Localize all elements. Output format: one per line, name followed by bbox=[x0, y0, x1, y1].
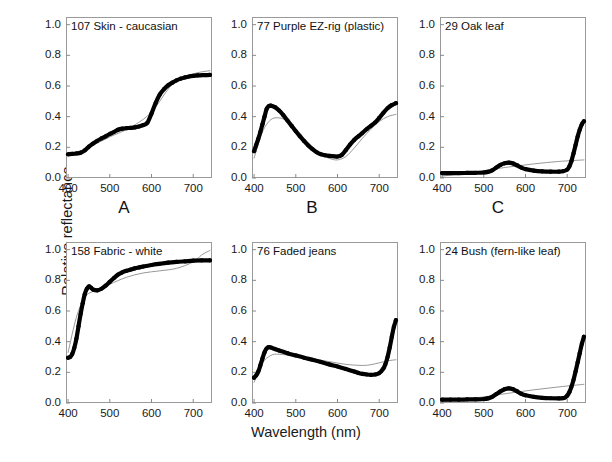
y-tick-label: 0.6 bbox=[32, 304, 61, 316]
x-tick-label: 500 bbox=[464, 182, 504, 194]
data-point bbox=[523, 393, 527, 397]
data-point bbox=[448, 171, 452, 175]
data-point bbox=[369, 124, 373, 128]
data-point bbox=[124, 126, 128, 130]
data-point bbox=[388, 346, 392, 350]
data-point bbox=[576, 360, 580, 364]
x-tick-label: 500 bbox=[90, 407, 130, 419]
x-tick-label: 700 bbox=[359, 182, 399, 194]
y-tick-label: 0.4 bbox=[218, 110, 247, 122]
y-tick-label: 0.6 bbox=[406, 79, 435, 91]
data-point bbox=[95, 139, 99, 143]
data-point bbox=[87, 144, 91, 148]
data-point bbox=[104, 134, 108, 138]
data-point bbox=[91, 287, 95, 291]
data-point bbox=[381, 366, 385, 370]
x-tick-label: 700 bbox=[547, 182, 587, 194]
data-point bbox=[260, 122, 264, 126]
plot-panel: 107 Skin - caucasian bbox=[66, 17, 212, 178]
x-tick-label: 400 bbox=[234, 407, 274, 419]
x-tick-label: 400 bbox=[422, 407, 462, 419]
x-tick-label: 400 bbox=[234, 182, 274, 194]
x-tick-label: 600 bbox=[506, 407, 546, 419]
data-point bbox=[344, 148, 348, 152]
data-point bbox=[394, 101, 398, 105]
data-point bbox=[99, 136, 103, 140]
data-point bbox=[373, 372, 377, 376]
data-point bbox=[137, 265, 141, 269]
data-point bbox=[70, 352, 74, 356]
data-point bbox=[83, 148, 87, 152]
y-tick-label: 0.6 bbox=[218, 304, 247, 316]
data-point bbox=[360, 131, 364, 135]
data-point bbox=[116, 272, 120, 276]
x-tick-label: 400 bbox=[422, 182, 462, 194]
curve-layer bbox=[440, 242, 586, 403]
data-point bbox=[490, 168, 494, 172]
data-point bbox=[70, 152, 74, 156]
y-tick-label: 0.4 bbox=[218, 335, 247, 347]
data-point bbox=[306, 143, 310, 147]
data-point bbox=[352, 138, 356, 142]
plot-panel: 24 Bush (fern-like leaf) bbox=[440, 242, 586, 403]
data-point bbox=[352, 369, 356, 373]
data-point bbox=[515, 163, 519, 167]
data-point bbox=[74, 151, 78, 155]
data-point bbox=[95, 288, 99, 292]
data-point bbox=[457, 398, 461, 402]
data-point bbox=[124, 269, 128, 273]
data-point bbox=[567, 390, 571, 394]
data-point bbox=[457, 171, 461, 175]
data-point bbox=[315, 150, 319, 154]
data-point bbox=[174, 78, 178, 82]
data-point bbox=[74, 337, 78, 341]
data-point bbox=[365, 127, 369, 131]
data-point bbox=[269, 345, 273, 349]
data-curve bbox=[254, 103, 396, 156]
data-point bbox=[369, 373, 373, 377]
data-point bbox=[141, 123, 145, 127]
x-axis-label: Wavelength (nm) bbox=[0, 424, 612, 440]
data-point bbox=[252, 149, 256, 153]
data-point bbox=[191, 74, 195, 78]
data-point bbox=[561, 169, 565, 173]
data-point bbox=[482, 397, 486, 401]
data-point bbox=[76, 324, 80, 328]
data-point bbox=[377, 371, 381, 375]
data-point bbox=[256, 137, 260, 141]
data-point bbox=[258, 363, 262, 367]
data-point bbox=[310, 147, 314, 151]
data-point bbox=[179, 77, 183, 81]
data-point bbox=[498, 163, 502, 167]
data-point bbox=[149, 263, 153, 267]
curve-layer bbox=[66, 242, 212, 403]
data-point bbox=[112, 130, 116, 134]
data-point bbox=[503, 161, 507, 165]
y-tick-label: 0.4 bbox=[406, 110, 435, 122]
data-point bbox=[511, 161, 515, 165]
data-point bbox=[381, 111, 385, 115]
data-point bbox=[83, 292, 87, 296]
x-tick-label: 600 bbox=[318, 182, 358, 194]
data-point bbox=[557, 170, 561, 174]
curve-layer bbox=[440, 17, 586, 178]
spectral-reflectance-figure: Relative reflectance Wavelength (nm) A B… bbox=[0, 0, 612, 462]
data-point bbox=[133, 266, 137, 270]
data-point bbox=[199, 73, 203, 77]
y-tick-label: 0.4 bbox=[32, 110, 61, 122]
data-point bbox=[576, 135, 580, 139]
data-point bbox=[507, 161, 511, 165]
data-point bbox=[327, 154, 331, 158]
data-point bbox=[486, 396, 490, 400]
data-point bbox=[582, 335, 586, 339]
data-point bbox=[208, 258, 212, 262]
y-tick-label: 0.4 bbox=[406, 335, 435, 347]
data-point bbox=[511, 387, 515, 391]
data-point bbox=[503, 387, 507, 391]
data-point bbox=[262, 115, 266, 119]
data-point bbox=[498, 389, 502, 393]
x-tick-label: 500 bbox=[464, 407, 504, 419]
data-point bbox=[448, 398, 452, 402]
data-point bbox=[170, 81, 174, 85]
y-tick-label: 1.0 bbox=[218, 18, 247, 30]
